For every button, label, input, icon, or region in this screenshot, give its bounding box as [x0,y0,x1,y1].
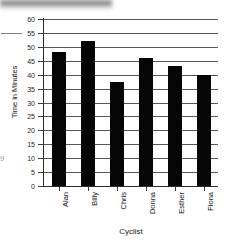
category-label: Chris [120,192,128,210]
y-axis-tick [38,103,43,104]
y-axis-tick-label: 15 [17,141,35,148]
y-axis-tick [38,75,43,76]
category-label: Billy [91,192,99,206]
bar-chart: Time in Minutes 605550454035302520151050… [0,0,234,245]
y-axis-tick-label: 10 [17,155,35,162]
y-axis-tick-label: 55 [17,30,35,37]
bar [81,41,95,186]
y-axis-tick [38,130,43,131]
plot-area [44,19,218,186]
bar [139,58,153,186]
category-label: Fiona [207,192,215,211]
gridline [44,116,218,117]
gridline [44,19,218,20]
category-label: Esther [178,192,186,214]
gridline [44,130,218,131]
gridline [44,47,218,48]
gridline [44,89,218,90]
y-axis-tick [38,19,43,20]
x-axis-tick [204,187,205,191]
y-axis-tick [38,172,43,173]
y-axis-tick [38,144,43,145]
y-axis-tick-label: 40 [17,72,35,79]
y-axis-tick [38,116,43,117]
gridline [44,158,218,159]
y-axis-tick-label: 0 [17,183,35,190]
x-axis-tick [146,187,147,191]
gridline [44,33,218,34]
y-axis-tick-label: 25 [17,113,35,120]
y-axis-tick-label: 30 [17,100,35,107]
y-axis-tick [38,158,43,159]
y-axis-tick [38,61,43,62]
y-axis-tick [38,33,43,34]
y-axis-tick [38,89,43,90]
y-axis-tick-label: 5 [17,169,35,176]
gridline [44,144,218,145]
gridline [44,103,218,104]
y-axis-tick [38,47,43,48]
category-label: Alan [62,192,70,207]
y-axis-tick [38,186,43,187]
bar [110,82,124,186]
y-axis-tick-label: 60 [17,16,35,23]
y-axis-tick-label: 20 [17,127,35,134]
x-axis-tick [59,187,60,191]
y-axis-tick-label: 50 [17,44,35,51]
gridline [44,186,218,187]
bar [197,75,211,186]
y-axis-tick-label: 35 [17,86,35,93]
x-axis-tick [88,187,89,191]
x-axis-title: Cyclist [44,228,218,236]
category-label: Donna [149,192,157,214]
x-axis-tick [117,187,118,191]
gridline [44,61,218,62]
bar [52,52,66,186]
bar [168,66,182,186]
gridline [44,172,218,173]
y-axis-tick-label: 45 [17,58,35,65]
x-axis-tick [175,187,176,191]
gridline [44,75,218,76]
